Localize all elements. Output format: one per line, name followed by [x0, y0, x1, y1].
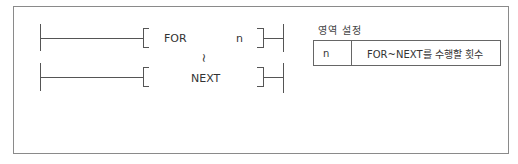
- param-description: FOR~NEXT를 수행할 횟수: [352, 41, 501, 66]
- continuation-symbol: ~: [197, 53, 211, 63]
- bracket-open-2-top: [143, 67, 149, 68]
- wire-2: [40, 77, 143, 78]
- instruction-for: FOR: [164, 32, 187, 45]
- wire-1-right: [263, 38, 283, 39]
- wire-2-right: [263, 77, 283, 78]
- table-row: n FOR~NEXT를 수행할 횟수: [314, 41, 501, 66]
- bracket-open-2-bottom: [143, 86, 149, 87]
- instruction-next: NEXT: [191, 72, 220, 85]
- settings-caption: 영역 설정: [318, 22, 362, 37]
- right-rail-2: [283, 63, 284, 93]
- operand-n: n: [236, 32, 243, 45]
- bracket-open-2: [143, 67, 144, 87]
- bracket-open-1: [143, 28, 144, 48]
- wire-1: [40, 38, 143, 39]
- settings-table: n FOR~NEXT를 수행할 횟수: [313, 40, 501, 66]
- param-key: n: [314, 41, 352, 66]
- bracket-open-1-bottom: [143, 47, 149, 48]
- bracket-open-1-top: [143, 28, 149, 29]
- right-rail-1: [283, 24, 284, 52]
